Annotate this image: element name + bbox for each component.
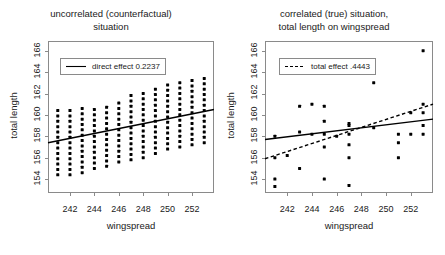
- data-point: [56, 125, 59, 128]
- data-point: [93, 167, 96, 170]
- y-tickmark-right: [262, 115, 265, 116]
- y-tick-label-left-166: 166: [32, 37, 42, 63]
- figure-root: uncorrelated (counterfactual) situation …: [0, 0, 445, 255]
- data-point: [130, 105, 133, 108]
- data-point: [105, 111, 108, 114]
- data-point: [191, 84, 194, 87]
- x-tick-label-left-242: 242: [57, 204, 83, 214]
- data-point: [273, 156, 276, 159]
- data-point: [81, 171, 84, 174]
- x-tick-label-left-246: 246: [106, 204, 132, 214]
- data-point: [81, 144, 84, 147]
- data-point: [348, 122, 351, 125]
- data-point: [81, 112, 84, 115]
- data-point: [203, 77, 206, 80]
- data-point: [273, 135, 276, 138]
- data-point: [81, 128, 84, 131]
- data-point: [166, 148, 169, 151]
- data-point: [105, 154, 108, 157]
- data-point: [298, 167, 301, 170]
- data-point: [81, 150, 84, 153]
- data-point: [154, 104, 157, 107]
- y-tickmark-right: [262, 72, 265, 73]
- regression-line-total-effect: [265, 104, 433, 159]
- data-point: [166, 105, 169, 108]
- data-point: [93, 135, 96, 138]
- x-tickmark-right: [361, 193, 362, 196]
- data-point: [130, 142, 133, 145]
- data-point: [142, 135, 145, 138]
- data-point: [130, 99, 133, 102]
- data-point: [130, 110, 133, 113]
- panel-uncorrelated: uncorrelated (counterfactual) situation …: [0, 0, 222, 255]
- data-point: [178, 103, 181, 106]
- data-point: [68, 120, 71, 123]
- data-point: [178, 119, 181, 122]
- data-point: [178, 97, 181, 100]
- data-point: [154, 141, 157, 144]
- data-point: [117, 144, 120, 147]
- x-tickmark-left: [119, 193, 120, 196]
- data-point: [191, 106, 194, 109]
- y-axis-label-left: total length: [8, 81, 19, 151]
- data-point: [154, 147, 157, 150]
- legend-left[interactable]: direct effect 0.2237: [60, 58, 166, 75]
- y-tickmark-right: [262, 51, 265, 52]
- data-point: [154, 114, 157, 117]
- data-point: [68, 168, 71, 171]
- data-point: [203, 120, 206, 123]
- x-tickmark-left: [94, 193, 95, 196]
- data-point: [93, 151, 96, 154]
- y-tickmark-right: [262, 136, 265, 137]
- data-point: [298, 130, 301, 133]
- data-point: [273, 185, 276, 188]
- data-point: [56, 168, 59, 171]
- data-point: [142, 97, 145, 100]
- data-point: [178, 87, 181, 90]
- data-point: [117, 112, 120, 115]
- data-point: [323, 120, 326, 123]
- data-point: [166, 89, 169, 92]
- data-point: [56, 152, 59, 155]
- data-point: [203, 114, 206, 117]
- data-point: [166, 121, 169, 124]
- data-point: [68, 130, 71, 133]
- data-point: [142, 151, 145, 154]
- data-point: [154, 136, 157, 139]
- data-point: [154, 152, 157, 155]
- data-point: [203, 136, 206, 139]
- data-point: [178, 129, 181, 132]
- data-point: [203, 82, 206, 85]
- x-tickmark-left: [168, 193, 169, 196]
- data-point: [323, 178, 326, 181]
- data-point: [105, 165, 108, 168]
- y-tickmark-right: [262, 179, 265, 180]
- data-point: [166, 142, 169, 145]
- data-point: [81, 139, 84, 142]
- legend-line-sample-right: [285, 62, 305, 71]
- data-point: [142, 145, 145, 148]
- data-point: [203, 98, 206, 101]
- legend-label-left: direct effect 0.2237: [92, 62, 160, 71]
- data-point: [191, 90, 194, 93]
- data-point: [348, 184, 351, 187]
- data-point: [191, 79, 194, 82]
- data-point: [422, 124, 425, 127]
- x-tick-label-right-248: 248: [348, 204, 374, 214]
- data-point: [117, 139, 120, 142]
- legend-label-right: total effect .4443: [311, 62, 370, 71]
- data-point: [117, 118, 120, 121]
- legend-right[interactable]: total effect .4443: [279, 58, 376, 75]
- x-tick-label-left-250: 250: [155, 204, 181, 214]
- data-point: [203, 93, 206, 96]
- data-point: [56, 136, 59, 139]
- data-point: [56, 114, 59, 117]
- y-tickmark-left: [45, 179, 48, 180]
- data-point: [191, 138, 194, 141]
- data-point: [117, 155, 120, 158]
- data-point: [178, 92, 181, 95]
- data-point: [178, 124, 181, 127]
- data-point: [348, 133, 351, 136]
- data-point: [191, 143, 194, 146]
- data-point: [203, 141, 206, 144]
